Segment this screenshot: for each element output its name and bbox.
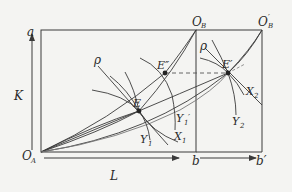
- label-a: a: [27, 25, 34, 39]
- label-y1-prime: Y 1 ′: [176, 112, 190, 127]
- contract-curve-expanded: [41, 30, 262, 152]
- contract-curve-original: [41, 30, 196, 152]
- contract-curves: [41, 30, 262, 152]
- label-x2: X 2: [245, 85, 259, 100]
- label-o-b: O B: [192, 15, 206, 30]
- ray-eprime-obprime: [228, 30, 262, 73]
- svg-text:2: 2: [239, 122, 245, 130]
- svg-text:2: 2: [253, 92, 259, 100]
- svg-text:′: ′: [188, 113, 190, 123]
- svg-text:′: ′: [268, 12, 270, 21]
- ray-oa-eprime: [41, 73, 228, 152]
- point-e-prime: [226, 71, 231, 76]
- label-e: E: [132, 97, 141, 110]
- label-y2: Y 2: [232, 115, 245, 130]
- svg-text:A: A: [30, 157, 36, 165]
- svg-text:B: B: [267, 22, 273, 30]
- label-e-double-prime: E″: [156, 59, 170, 72]
- label-o-a: O A: [22, 149, 36, 165]
- label-b: b: [192, 154, 200, 168]
- label-k: K: [13, 89, 24, 103]
- svg-text:1: 1: [148, 140, 152, 148]
- label-o-b-prime: O B ′: [258, 12, 273, 30]
- label-x1: X 1: [173, 130, 186, 145]
- label-e-prime: E′: [221, 58, 233, 71]
- label-rho-left: ρ: [93, 53, 101, 67]
- box-frame: [41, 30, 262, 152]
- label-rho-right: ρ: [199, 39, 207, 53]
- edgeworth-box-diagram: a K L O A O B O B ′ b b′ ρ ρ E E″ E′ Y 1…: [0, 0, 292, 192]
- label-l: L: [109, 169, 118, 183]
- contract-curve-shifted: [41, 30, 196, 152]
- svg-text:1: 1: [182, 137, 186, 145]
- original-box: [41, 30, 196, 152]
- svg-text:B: B: [200, 22, 206, 30]
- label-b-prime: b′: [256, 154, 267, 168]
- label-y1: Y 1: [140, 133, 152, 148]
- svg-text:O: O: [258, 15, 268, 29]
